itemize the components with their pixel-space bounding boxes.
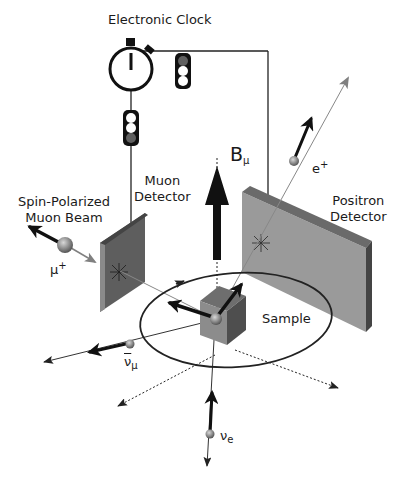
positron-label-base: e [312, 161, 320, 176]
neutrino-particle [206, 430, 215, 439]
antineutrino-particle [126, 340, 135, 349]
positron-detector-label-line1: Positron [330, 193, 387, 209]
coordinate-axes [118, 350, 338, 406]
antineutrino-label-base: ν [124, 354, 131, 369]
field-label: Bμ [230, 146, 249, 166]
muon-particle [57, 237, 73, 253]
positron-detector-label: Positron Detector [330, 193, 387, 225]
muon-beam-label-line2: Muon Beam [18, 210, 110, 226]
positron-label: e+ [312, 161, 328, 178]
muon-detector-label-line1: Muon [134, 173, 191, 189]
antineutrino-label-sub: μ [131, 358, 137, 374]
muon-label-sup: + [58, 260, 66, 271]
positron-particle [289, 156, 299, 166]
sample-label: Sample [262, 311, 311, 327]
neutrino-label-sub: e [227, 434, 233, 445]
musr-diagram [0, 0, 402, 481]
signal-indicator-left-icon [123, 110, 139, 146]
antineutrino-label: νμ [124, 354, 138, 371]
muon-beam-label: Spin-Polarized Muon Beam [18, 194, 110, 226]
positron-detector-label-line2: Detector [330, 209, 387, 225]
positron-label-sup: + [320, 159, 328, 170]
muon-beam-label-line1: Spin-Polarized [18, 194, 110, 210]
field-label-sub: μ [243, 155, 249, 166]
sample-muon-particle [210, 313, 222, 325]
field-label-base: B [230, 143, 243, 165]
muon-detector-label-line2: Detector [134, 189, 191, 205]
signal-indicator-top-icon [175, 53, 191, 89]
electronic-clock-label: Electronic Clock [108, 12, 212, 28]
muon-label: μ+ [50, 262, 67, 279]
muon-detector [100, 213, 148, 312]
neutrino-label: νe [220, 428, 233, 445]
stopwatch-icon [110, 38, 155, 90]
muon-hit-icon [110, 263, 128, 281]
muon-detector-label: Muon Detector [134, 173, 191, 205]
